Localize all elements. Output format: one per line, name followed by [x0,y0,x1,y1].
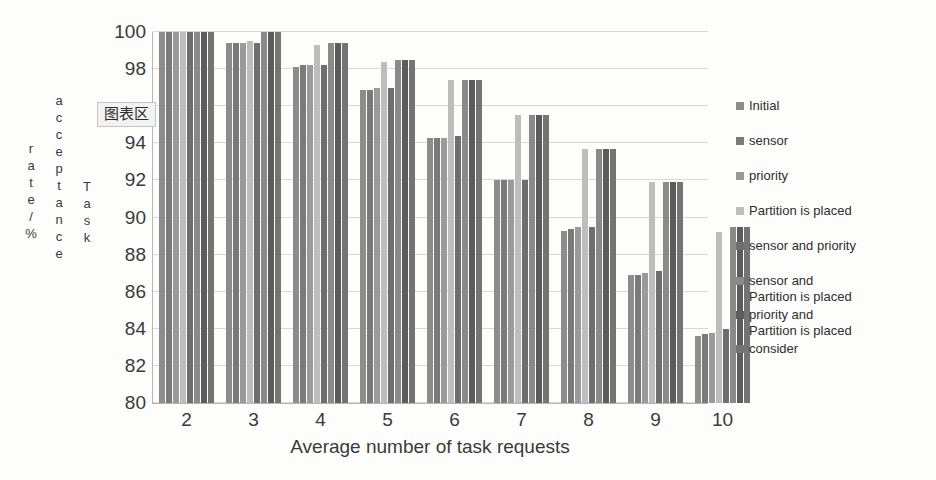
bar[interactable] [381,62,387,403]
legend-item[interactable]: priority [736,168,932,184]
bar[interactable] [568,229,574,403]
bar[interactable] [402,60,408,403]
bar[interactable] [268,32,274,403]
y-axis-title-rate-char: r [29,140,33,157]
bar[interactable] [501,180,507,403]
bar[interactable] [360,90,366,403]
bar[interactable] [596,149,602,403]
bar[interactable] [300,65,306,403]
legend-swatch-icon [736,277,744,285]
bar[interactable] [723,329,729,403]
bar[interactable] [388,88,394,403]
bar[interactable] [635,275,641,403]
bar[interactable] [561,231,567,404]
y-axis-title-acceptance-char: c [56,109,63,126]
bar[interactable] [476,80,482,403]
y-axis-title-rate-char: % [25,225,37,242]
y-axis-tick-label: 94 [125,132,146,154]
legend-swatch-icon [736,207,744,215]
bar[interactable] [628,275,634,403]
bar[interactable] [434,138,440,403]
bar[interactable] [469,80,475,403]
bar-group: 6 [421,32,488,403]
bar[interactable] [374,88,380,403]
bar[interactable] [293,67,299,403]
y-axis-title-task: Task [78,178,96,246]
bar[interactable] [589,227,595,403]
bar[interactable] [208,32,214,403]
bar[interactable] [328,43,334,403]
legend-swatch-icon [736,311,744,319]
bar[interactable] [649,182,655,403]
legend-item[interactable]: sensor and priority [736,238,932,254]
legend-item[interactable]: sensor [736,133,932,149]
legend-label: Partition is placed [749,203,852,219]
bar[interactable] [716,232,722,403]
bar[interactable] [180,32,186,403]
bar[interactable] [187,32,193,403]
bar[interactable] [173,32,179,403]
bar-group: 5 [354,32,421,403]
bar[interactable] [656,271,662,403]
bar[interactable] [307,65,313,403]
x-axis-tick-label: 6 [421,409,488,431]
legend-item[interactable]: priority and Partition is placed [736,307,932,339]
bar[interactable] [677,182,683,403]
legend-swatch-icon [736,345,744,353]
y-axis-title-task-char: k [84,229,91,246]
bar[interactable] [240,43,246,403]
bar[interactable] [254,43,260,403]
bar[interactable] [233,43,239,403]
bar[interactable] [335,43,341,403]
bar[interactable] [536,115,542,403]
bar[interactable] [441,138,447,403]
bar[interactable] [314,45,320,403]
bar[interactable] [194,32,200,403]
bar[interactable] [409,60,415,403]
bar[interactable] [515,115,521,403]
bar[interactable] [275,32,281,403]
legend-item[interactable]: sensor and Partition is placed [736,273,932,305]
y-axis-tick-label: 88 [125,244,146,266]
bar[interactable] [575,227,581,403]
bar[interactable] [543,115,549,403]
bar[interactable] [709,333,715,403]
bar[interactable] [261,32,267,403]
bar[interactable] [702,334,708,403]
legend-swatch-icon [736,137,744,145]
bar[interactable] [427,138,433,403]
bar[interactable] [670,182,676,403]
bar[interactable] [226,43,232,403]
bar[interactable] [522,180,528,403]
bar[interactable] [159,32,165,403]
bar[interactable] [321,65,327,403]
y-axis-title-acceptance-char: e [55,143,62,160]
y-axis-title-task-char: a [83,195,90,212]
legend-swatch-icon [736,172,744,180]
bar[interactable] [529,115,535,403]
bar[interactable] [603,149,609,403]
legend-item[interactable]: Partition is placed [736,203,932,219]
bar[interactable] [342,43,348,403]
bar[interactable] [455,136,461,403]
bar[interactable] [663,182,669,403]
legend-item[interactable]: consider [736,341,932,357]
bar[interactable] [201,32,207,403]
bar[interactable] [642,273,648,403]
bar[interactable] [448,80,454,403]
bar[interactable] [166,32,172,403]
bar[interactable] [582,149,588,403]
legend-item[interactable]: Initial [736,98,932,114]
bar[interactable] [494,180,500,403]
bar[interactable] [695,336,701,403]
bar[interactable] [395,60,401,403]
y-axis-tick-label: 86 [125,281,146,303]
x-axis-tick-label: 5 [354,409,421,431]
bar[interactable] [462,80,468,403]
y-axis-title-rate-char: / [29,208,33,225]
bar[interactable] [247,41,253,403]
bar[interactable] [610,149,616,403]
bar[interactable] [367,90,373,403]
y-axis-title-acceptance-char: n [55,211,62,228]
bar[interactable] [508,180,514,403]
